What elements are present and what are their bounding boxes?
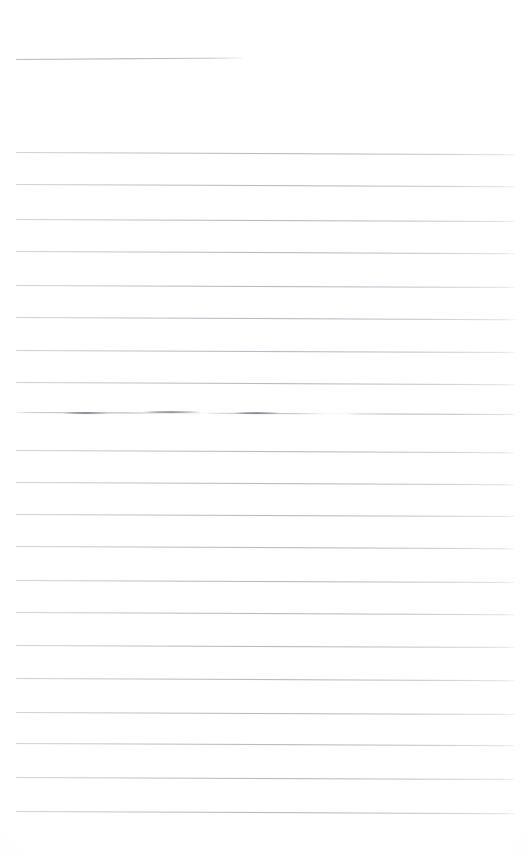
ruled-line-21-ink — [16, 811, 515, 814]
ruled-line-15-ink — [16, 612, 515, 615]
ruled-line-11 — [16, 482, 515, 485]
document-page — [0, 0, 530, 858]
ruled-line-17-ink — [16, 678, 515, 681]
ruled-line-10-ink — [16, 450, 515, 453]
ruled-line-7 — [16, 350, 515, 353]
ruled-line-3-ink — [16, 219, 515, 222]
ruled-line-16 — [16, 645, 515, 648]
ruled-line-5-ink — [16, 285, 515, 288]
ruled-line-8 — [16, 382, 515, 385]
ink-stroke-3 — [234, 412, 280, 414]
ruled-line-2 — [16, 184, 515, 187]
ruled-line-11-ink — [16, 482, 515, 485]
ruled-line-20 — [16, 777, 515, 780]
ruled-line-14 — [16, 580, 515, 583]
ruled-line-6 — [16, 317, 515, 320]
ruled-line-6-ink — [16, 317, 515, 320]
ruled-line-12 — [16, 514, 515, 517]
ruled-line-1-ink — [16, 152, 515, 155]
ruled-line-4-ink — [16, 251, 515, 254]
ruled-line-15 — [16, 612, 515, 615]
ruled-line-7-ink — [16, 350, 515, 353]
ruled-line-13 — [16, 546, 515, 549]
header-rule — [16, 58, 242, 60]
header-rule-ink — [16, 58, 242, 60]
ruled-line-2-ink — [16, 184, 515, 187]
ruled-line-1 — [16, 152, 515, 155]
ruled-line-13-ink — [16, 546, 515, 549]
ruled-line-12-ink — [16, 514, 515, 517]
ruled-line-10 — [16, 450, 515, 453]
ruled-line-20-ink — [16, 777, 515, 780]
ruled-line-4 — [16, 251, 515, 254]
ruled-line-5 — [16, 285, 515, 288]
ruled-line-8-ink — [16, 382, 515, 385]
ruled-line-17 — [16, 678, 515, 681]
ruled-line-19-ink — [16, 743, 515, 746]
ruled-line-16-ink — [16, 645, 515, 648]
ruled-line-18 — [16, 712, 515, 715]
ruled-line-3 — [16, 219, 515, 222]
ruled-line-14-ink — [16, 580, 515, 583]
ruled-line-19 — [16, 743, 515, 746]
ruled-line-18-ink — [16, 712, 515, 715]
ruled-line-21 — [16, 811, 515, 814]
ink-stroke-1 — [63, 412, 109, 414]
ink-stroke-2 — [143, 411, 201, 413]
paper-texture — [0, 0, 530, 858]
